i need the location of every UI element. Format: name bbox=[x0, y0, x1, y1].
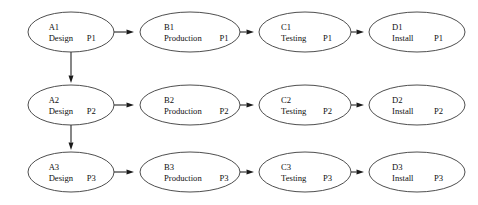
edge-b2-to-c2 bbox=[240, 103, 254, 108]
node-id-label: C3 bbox=[281, 162, 291, 172]
node-ellipse[interactable] bbox=[140, 152, 240, 192]
node-id-label: D1 bbox=[392, 22, 403, 32]
node-d1[interactable]: D1InstallP1 bbox=[369, 12, 465, 52]
edge-c3-to-d3 bbox=[351, 170, 364, 175]
node-task-label: Install bbox=[392, 173, 414, 183]
node-ellipse[interactable] bbox=[259, 12, 351, 52]
node-id-label: A2 bbox=[49, 95, 60, 105]
node-task-label: Install bbox=[392, 33, 414, 43]
node-phase-label: P3 bbox=[323, 173, 332, 183]
node-id-label: B1 bbox=[164, 22, 174, 32]
node-b1[interactable]: B1ProductionP1 bbox=[140, 12, 240, 52]
node-a2[interactable]: A2DesignP2 bbox=[28, 85, 114, 125]
edge-a1-to-a2 bbox=[69, 52, 74, 83]
node-a3[interactable]: A3DesignP3 bbox=[28, 152, 114, 192]
node-id-label: C2 bbox=[281, 95, 291, 105]
node-task-label: Design bbox=[49, 173, 74, 183]
node-phase-label: P3 bbox=[220, 173, 229, 183]
node-phase-label: P3 bbox=[87, 173, 96, 183]
edge-b3-to-c3 bbox=[240, 170, 254, 175]
node-c1[interactable]: C1TestingP1 bbox=[259, 12, 351, 52]
node-phase-label: P1 bbox=[323, 33, 332, 43]
node-b3[interactable]: B3ProductionP3 bbox=[140, 152, 240, 192]
node-id-label: D3 bbox=[392, 162, 403, 172]
arrowhead-icon bbox=[357, 103, 365, 108]
diagram-root: A1DesignP1B1ProductionP1C1TestingP1D1Ins… bbox=[0, 0, 478, 205]
node-phase-label: P1 bbox=[87, 33, 96, 43]
node-c2[interactable]: C2TestingP2 bbox=[259, 85, 351, 125]
diagram-canvas: A1DesignP1B1ProductionP1C1TestingP1D1Ins… bbox=[0, 0, 478, 205]
node-task-label: Production bbox=[164, 173, 202, 183]
edge-a2-to-a3 bbox=[69, 125, 74, 150]
node-ellipse[interactable] bbox=[140, 12, 240, 52]
node-phase-label: P1 bbox=[434, 33, 443, 43]
arrowhead-icon bbox=[357, 170, 365, 175]
node-ellipse[interactable] bbox=[369, 152, 465, 192]
node-ellipse[interactable] bbox=[28, 152, 114, 192]
edge-a2-to-b2 bbox=[114, 103, 134, 108]
node-task-label: Testing bbox=[281, 106, 307, 116]
arrowhead-icon bbox=[247, 103, 255, 108]
node-c3[interactable]: C3TestingP3 bbox=[259, 152, 351, 192]
edge-b1-to-c1 bbox=[240, 30, 254, 35]
arrowhead-icon bbox=[127, 170, 135, 175]
node-d3[interactable]: D3InstallP3 bbox=[369, 152, 465, 192]
node-ellipse[interactable] bbox=[369, 85, 465, 125]
node-phase-label: P3 bbox=[434, 173, 443, 183]
edge-a1-to-b1 bbox=[114, 30, 134, 35]
node-phase-label: P1 bbox=[220, 33, 229, 43]
arrowhead-icon bbox=[69, 143, 74, 151]
node-a1[interactable]: A1DesignP1 bbox=[28, 12, 114, 52]
arrowhead-icon bbox=[69, 76, 74, 84]
node-d2[interactable]: D2InstallP2 bbox=[369, 85, 465, 125]
arrowhead-icon bbox=[357, 30, 365, 35]
node-task-label: Production bbox=[164, 106, 202, 116]
edge-c1-to-d1 bbox=[351, 30, 364, 35]
node-phase-label: P2 bbox=[434, 106, 443, 116]
node-id-label: B3 bbox=[164, 162, 174, 172]
node-task-label: Install bbox=[392, 106, 414, 116]
arrowhead-icon bbox=[247, 170, 255, 175]
node-id-label: A3 bbox=[49, 162, 60, 172]
node-ellipse[interactable] bbox=[259, 85, 351, 125]
node-ellipse[interactable] bbox=[259, 152, 351, 192]
node-id-label: C1 bbox=[281, 22, 291, 32]
arrowhead-icon bbox=[127, 103, 135, 108]
node-task-label: Production bbox=[164, 33, 202, 43]
node-id-label: B2 bbox=[164, 95, 174, 105]
arrowhead-icon bbox=[127, 30, 135, 35]
arrowhead-icon bbox=[247, 30, 255, 35]
node-task-label: Testing bbox=[281, 33, 307, 43]
node-phase-label: P2 bbox=[87, 106, 96, 116]
node-id-label: D2 bbox=[392, 95, 403, 105]
node-task-label: Design bbox=[49, 106, 74, 116]
node-task-label: Design bbox=[49, 33, 74, 43]
node-ellipse[interactable] bbox=[140, 85, 240, 125]
node-phase-label: P2 bbox=[220, 106, 229, 116]
edge-c2-to-d2 bbox=[351, 103, 364, 108]
node-ellipse[interactable] bbox=[369, 12, 465, 52]
node-id-label: A1 bbox=[49, 22, 60, 32]
node-ellipse[interactable] bbox=[28, 85, 114, 125]
edge-a3-to-b3 bbox=[114, 170, 134, 175]
node-b2[interactable]: B2ProductionP2 bbox=[140, 85, 240, 125]
node-ellipse[interactable] bbox=[28, 12, 114, 52]
node-phase-label: P2 bbox=[323, 106, 332, 116]
node-task-label: Testing bbox=[281, 173, 307, 183]
nodes-layer: A1DesignP1B1ProductionP1C1TestingP1D1Ins… bbox=[28, 12, 465, 192]
